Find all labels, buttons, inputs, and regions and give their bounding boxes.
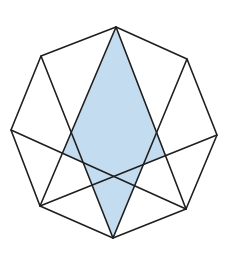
diagram-canvas (0, 0, 234, 253)
octagon-diagram (0, 0, 234, 253)
shaded-region (62, 27, 165, 238)
